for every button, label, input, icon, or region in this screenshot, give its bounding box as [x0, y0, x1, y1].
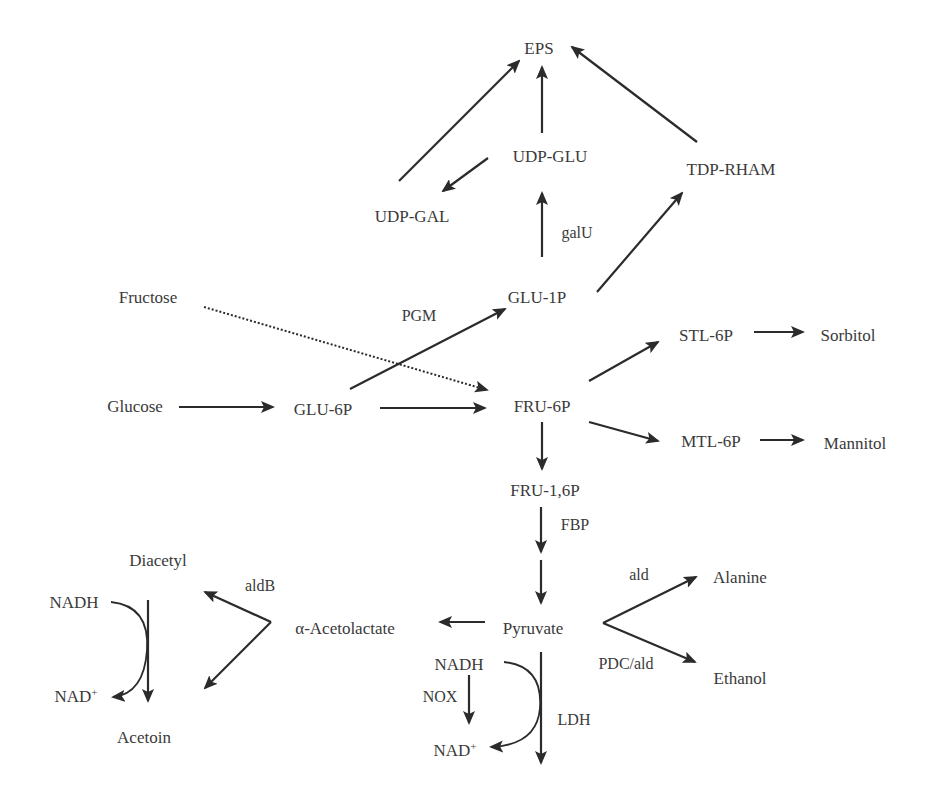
- metabolite-glu-6p: GLU-6P: [294, 401, 353, 418]
- metabolite-label: Fructose: [119, 288, 178, 307]
- metabolite-label: Pyruvate: [503, 619, 563, 638]
- metabolite-stl-6p: STL-6P: [679, 327, 733, 344]
- metabolite-sorbitol: Sorbitol: [821, 327, 876, 344]
- metabolite-label: GLU-1P: [508, 288, 567, 307]
- metabolite-label: NADH: [434, 655, 483, 674]
- arrow-tdprham-eps: [572, 47, 697, 142]
- metabolite-nad-right: NAD+: [433, 741, 476, 759]
- metabolite-label: NADH: [49, 593, 98, 612]
- metabolite-label: EPS: [524, 39, 553, 58]
- metabolite-diacetyl: Diacetyl: [129, 552, 187, 569]
- arrow-fru6p-stl6p: [589, 342, 658, 381]
- metabolite-label: NAD: [54, 687, 91, 706]
- metabolite-pyruvate: Pyruvate: [503, 620, 563, 637]
- metabolite-fru-6p: FRU-6P: [514, 398, 571, 415]
- metabolite-nad-left: NAD+: [54, 687, 97, 705]
- metabolite-label: FRU-1,6P: [510, 481, 579, 500]
- enzyme-ald: ald: [629, 567, 649, 583]
- metabolite-glu-1p: GLU-1P: [508, 289, 567, 306]
- metabolite-label: Alanine: [713, 568, 767, 587]
- enzyme-nox: NOX: [423, 689, 458, 705]
- metabolite-label: STL-6P: [679, 326, 733, 345]
- pathway-diagram: EPSUDP-GLUTDP-RHAMUDP-GALGLU-1PFructoseS…: [0, 0, 938, 803]
- metabolite-label: FRU-6P: [514, 397, 571, 416]
- metabolite-label: UDP-GLU: [513, 147, 588, 166]
- metabolite-udp-gal: UDP-GAL: [375, 208, 450, 225]
- arrow-udpglu-udpgal: [443, 158, 488, 191]
- metabolite-label: GLU-6P: [294, 400, 353, 419]
- metabolite-glucose: Glucose: [107, 398, 163, 415]
- metabolite-label: Ethanol: [714, 669, 767, 688]
- metabolite-label: TDP-RHAM: [687, 160, 776, 179]
- metabolite-tdp-rham: TDP-RHAM: [687, 161, 776, 178]
- charge-superscript: +: [91, 686, 97, 698]
- enzyme-pdc-ald: PDC/ald: [598, 656, 653, 672]
- metabolite-alanine: Alanine: [713, 569, 767, 586]
- arrow-glu1p-tdprham: [597, 193, 682, 292]
- arrow-acetolactate-diacetyl: [205, 592, 271, 622]
- metabolite-acetolactate: α-Acetolactate: [295, 620, 395, 637]
- enzyme-aldb: aldB: [245, 578, 275, 594]
- metabolite-eps: EPS: [524, 40, 553, 57]
- cofactor-curve-left: [111, 602, 147, 697]
- metabolite-label: Acetoin: [117, 728, 171, 747]
- metabolite-label: MTL-6P: [681, 432, 741, 451]
- enzyme-pgm: PGM: [402, 308, 437, 324]
- metabolite-fructose: Fructose: [119, 289, 178, 306]
- metabolite-ethanol: Ethanol: [714, 670, 767, 687]
- metabolite-acetoin: Acetoin: [117, 729, 171, 746]
- arrow-udpgal-eps: [399, 61, 519, 181]
- metabolite-label: Diacetyl: [129, 551, 187, 570]
- charge-superscript: +: [470, 740, 476, 752]
- metabolite-udp-glu: UDP-GLU: [513, 148, 588, 165]
- metabolite-nadh-left: NADH: [49, 594, 98, 611]
- metabolite-mtl-6p: MTL-6P: [681, 433, 741, 450]
- metabolite-label: Mannitol: [824, 434, 886, 453]
- metabolite-nadh-right: NADH: [434, 656, 483, 673]
- enzyme-fbp: FBP: [561, 517, 589, 533]
- enzyme-galu: galU: [561, 225, 592, 241]
- enzyme-ldh: LDH: [558, 712, 591, 728]
- cofactor-curve-right: [491, 662, 540, 747]
- arrow-acetolactate-acetoin: [205, 622, 271, 688]
- metabolite-fru-16p: FRU-1,6P: [510, 482, 579, 499]
- arrow-pyruvate-alanine: [603, 577, 696, 623]
- arrow-fructose-fru6p: [204, 307, 487, 390]
- metabolite-label: α-Acetolactate: [295, 619, 395, 638]
- metabolite-label: Glucose: [107, 397, 163, 416]
- metabolite-label: NAD: [433, 741, 470, 760]
- metabolite-mannitol: Mannitol: [824, 435, 886, 452]
- arrow-fru6p-mtl6p: [589, 422, 658, 441]
- metabolite-label: UDP-GAL: [375, 207, 450, 226]
- metabolite-label: Sorbitol: [821, 326, 876, 345]
